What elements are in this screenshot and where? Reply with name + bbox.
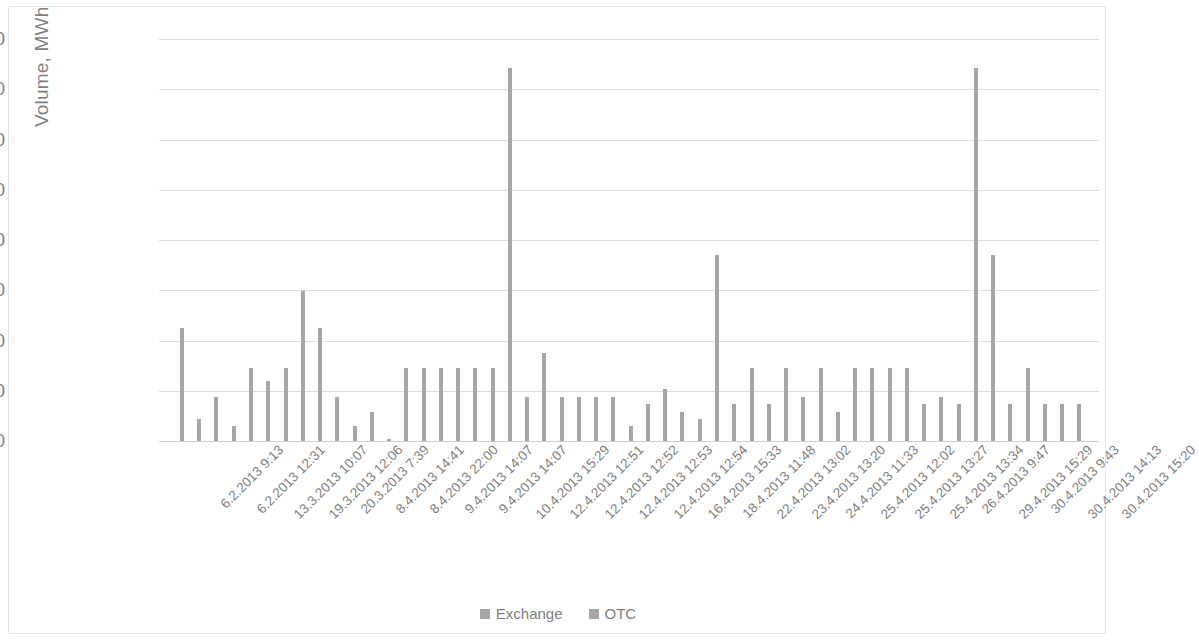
y-axis-tick-label: 0 bbox=[0, 432, 5, 450]
bar bbox=[629, 426, 633, 441]
bar bbox=[301, 291, 305, 441]
bar bbox=[939, 397, 943, 441]
bar bbox=[1060, 404, 1064, 441]
bar bbox=[1008, 404, 1012, 441]
bar bbox=[491, 368, 495, 441]
x-axis-line bbox=[159, 441, 1099, 442]
bar bbox=[905, 368, 909, 441]
bar bbox=[663, 389, 667, 441]
bar bbox=[577, 397, 581, 441]
bar bbox=[422, 368, 426, 441]
bar bbox=[991, 255, 995, 441]
y-axis-tick-label: 40000 bbox=[0, 30, 5, 48]
bar bbox=[698, 419, 702, 441]
bar bbox=[387, 439, 391, 441]
bar bbox=[542, 353, 546, 441]
bar bbox=[266, 381, 270, 441]
bar bbox=[525, 397, 529, 441]
bar bbox=[646, 404, 650, 441]
bar bbox=[819, 368, 823, 441]
plot-area: 4000035000300002500020000150001000050000 bbox=[159, 33, 1099, 441]
y-axis-tick-label: 25000 bbox=[0, 181, 5, 199]
y-axis-tick-label: 30000 bbox=[0, 131, 5, 149]
bar bbox=[473, 368, 477, 441]
y-axis-tick-label: 10000 bbox=[0, 332, 5, 350]
bar bbox=[404, 368, 408, 441]
bar bbox=[232, 426, 236, 441]
bar bbox=[853, 368, 857, 441]
bar bbox=[318, 328, 322, 441]
bar bbox=[922, 404, 926, 441]
legend-swatch-icon bbox=[589, 609, 599, 619]
bar bbox=[1043, 404, 1047, 441]
bar bbox=[180, 328, 184, 441]
legend-item[interactable]: Exchange bbox=[480, 605, 563, 622]
bar bbox=[680, 412, 684, 441]
bar bbox=[1026, 368, 1030, 441]
y-axis-title: Volume, MWh bbox=[31, 0, 53, 127]
bar bbox=[353, 426, 357, 441]
y-axis-tick-label: 5000 bbox=[0, 382, 5, 400]
bar bbox=[767, 404, 771, 441]
bar bbox=[560, 397, 564, 441]
bar bbox=[594, 397, 598, 441]
chart-legend: ExchangeOTC bbox=[9, 605, 1107, 622]
legend-swatch-icon bbox=[480, 609, 490, 619]
bar bbox=[439, 368, 443, 441]
bar bbox=[370, 412, 374, 441]
bar bbox=[888, 368, 892, 441]
bar bbox=[611, 397, 615, 441]
bar bbox=[732, 404, 736, 441]
bar bbox=[197, 419, 201, 441]
bar bbox=[974, 68, 978, 441]
bar bbox=[508, 68, 512, 441]
bar bbox=[784, 368, 788, 441]
bar bbox=[214, 397, 218, 441]
bar bbox=[870, 368, 874, 441]
bars-layer bbox=[167, 39, 1099, 441]
bar bbox=[801, 397, 805, 441]
y-axis-tick-label: 15000 bbox=[0, 281, 5, 299]
bar bbox=[249, 368, 253, 441]
legend-label: OTC bbox=[605, 605, 637, 622]
bar bbox=[750, 368, 754, 441]
bar bbox=[715, 255, 719, 441]
y-axis-tick-label: 35000 bbox=[0, 80, 5, 98]
y-axis-tick-label: 20000 bbox=[0, 231, 5, 249]
legend-label: Exchange bbox=[496, 605, 563, 622]
legend-item[interactable]: OTC bbox=[589, 605, 637, 622]
x-axis-tick-labels: 6.2.2013 9:136.2.2013 12:3113.3.2013 10:… bbox=[159, 443, 1107, 583]
bar bbox=[335, 397, 339, 441]
chart-container: Volume, MWh 4000035000300002500020000150… bbox=[8, 6, 1106, 634]
bar bbox=[957, 404, 961, 441]
bar bbox=[284, 368, 288, 441]
bar bbox=[1077, 404, 1081, 441]
bar bbox=[456, 368, 460, 441]
bar bbox=[836, 412, 840, 441]
